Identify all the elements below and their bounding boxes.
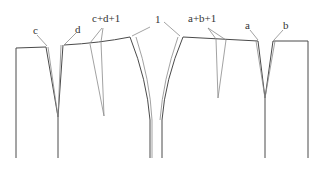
pattern-diagram: c d c+d+1 1 a+b+1 a b bbox=[0, 0, 324, 171]
label-c-d-1: c+d+1 bbox=[92, 13, 120, 24]
dart-a-thin bbox=[256, 41, 265, 98]
leader-c bbox=[37, 35, 47, 46]
back-side-seam bbox=[130, 37, 150, 158]
dart-cd1 bbox=[90, 42, 104, 116]
label-d: d bbox=[75, 24, 81, 35]
front-center-line bbox=[273, 41, 308, 158]
leader-b bbox=[274, 30, 283, 40]
dart-b-thin bbox=[265, 41, 275, 98]
label-b: b bbox=[283, 20, 289, 31]
leader-a bbox=[250, 30, 258, 40]
leader-1-right bbox=[164, 22, 180, 36]
back-center-line bbox=[16, 47, 46, 158]
dart-c-thin bbox=[48, 47, 58, 117]
leader-cd1-b bbox=[101, 28, 103, 42]
leader-ab1-a bbox=[208, 28, 216, 39]
label-a: a bbox=[245, 20, 250, 31]
back-waist-curve bbox=[64, 37, 130, 45]
leader-cd1-a bbox=[90, 28, 102, 43]
label-a-b-1: a+b+1 bbox=[188, 13, 216, 24]
label-1: 1 bbox=[155, 14, 161, 25]
label-c: c bbox=[33, 25, 38, 36]
front-waist-line bbox=[183, 37, 258, 41]
leader-1-left bbox=[132, 27, 150, 36]
dart-ab1 bbox=[216, 39, 226, 98]
pattern-drawing bbox=[0, 0, 324, 171]
